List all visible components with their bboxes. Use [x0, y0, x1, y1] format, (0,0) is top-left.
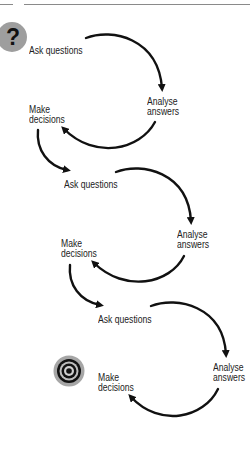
arrow-analyse-to-decide-3	[131, 389, 218, 416]
label-make-decisions-1: Make decisions	[29, 104, 65, 124]
arrow-ask-to-analyse-3	[151, 302, 226, 354]
label-make-decisions-3: Make decisions	[98, 372, 134, 392]
label-analyse-answers-2: Analyse answers	[177, 229, 209, 249]
label-analyse-answers-3: Analyse answers	[213, 362, 245, 382]
arrow-ask-to-analyse-1	[86, 35, 162, 88]
label-ask-questions-3: Ask questions	[98, 314, 152, 324]
arrow-decide-to-next-ask-2	[70, 265, 100, 305]
arrow-analyse-to-decide-1	[64, 122, 155, 148]
arrow-decide-to-next-ask-1	[38, 130, 67, 170]
label-ask-questions-2: Ask questions	[64, 179, 118, 189]
label-ask-questions-1: Ask questions	[29, 45, 83, 55]
label-make-decisions-2: Make decisions	[61, 238, 97, 258]
label-analyse-answers-1: Analyse answers	[147, 96, 179, 116]
arrow-ask-to-analyse-2	[116, 169, 191, 221]
arrow-analyse-to-decide-2	[94, 256, 184, 282]
